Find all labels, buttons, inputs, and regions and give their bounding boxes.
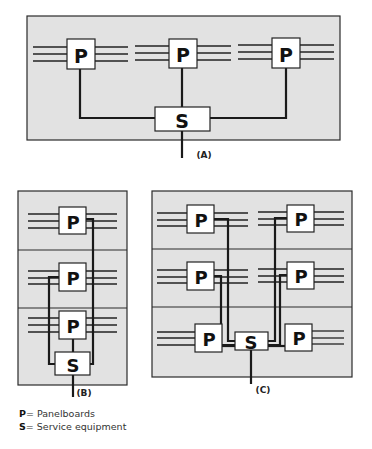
panelboard: P bbox=[272, 38, 300, 68]
service-equipment: S bbox=[235, 332, 268, 353]
legend-text: Panelboards bbox=[37, 408, 95, 419]
svg-text:S: S bbox=[67, 355, 80, 376]
svg-text:P: P bbox=[194, 267, 207, 288]
panelboard: P bbox=[59, 311, 86, 339]
panelboard: P bbox=[285, 324, 312, 351]
electrical-riser-diagrams: P P P S (A) P P P S (B) bbox=[0, 0, 372, 449]
svg-text:P: P bbox=[202, 329, 215, 350]
panelboard: P bbox=[287, 262, 314, 289]
svg-text:S: S bbox=[245, 332, 258, 353]
legend-item-service-equipment: S= Service equipment bbox=[19, 421, 126, 432]
svg-text:P: P bbox=[294, 266, 307, 287]
service-equipment: S bbox=[155, 107, 210, 132]
svg-text:S: S bbox=[175, 110, 189, 132]
diagram-c-caption: (C) bbox=[256, 385, 271, 395]
panelboard: P bbox=[67, 39, 95, 69]
panelboard: P bbox=[195, 324, 222, 352]
svg-text:P: P bbox=[66, 268, 79, 289]
panelboard: P bbox=[287, 205, 314, 232]
svg-text:P: P bbox=[292, 328, 305, 349]
diagram-b-caption: (B) bbox=[76, 388, 91, 398]
svg-text:P: P bbox=[176, 44, 190, 66]
legend-text: Service equipment bbox=[37, 421, 127, 432]
panelboard: P bbox=[59, 207, 86, 234]
svg-text:P: P bbox=[74, 45, 88, 67]
legend-item-panelboards: P= Panelboards bbox=[19, 408, 95, 419]
panelboard: P bbox=[187, 205, 214, 233]
svg-text:P: P bbox=[294, 209, 307, 230]
svg-text:P: P bbox=[66, 316, 79, 337]
panelboard: P bbox=[59, 263, 86, 291]
diagram-a-caption: (A) bbox=[196, 150, 211, 160]
diagram-b: P P P S (B) bbox=[18, 191, 127, 398]
svg-text:P: P bbox=[279, 44, 293, 66]
panelboard: P bbox=[169, 39, 197, 68]
diagram-a: P P P S (A) bbox=[27, 16, 340, 160]
legend-separator: = bbox=[26, 408, 37, 419]
legend-key: S bbox=[19, 421, 26, 432]
panelboard: P bbox=[187, 262, 214, 290]
diagram-c: P P P P P P S (C) bbox=[152, 191, 352, 395]
legend-separator: = bbox=[26, 421, 37, 432]
legend-key: P bbox=[19, 408, 26, 419]
svg-text:P: P bbox=[66, 212, 79, 233]
service-equipment: S bbox=[55, 352, 90, 376]
svg-text:P: P bbox=[194, 210, 207, 231]
